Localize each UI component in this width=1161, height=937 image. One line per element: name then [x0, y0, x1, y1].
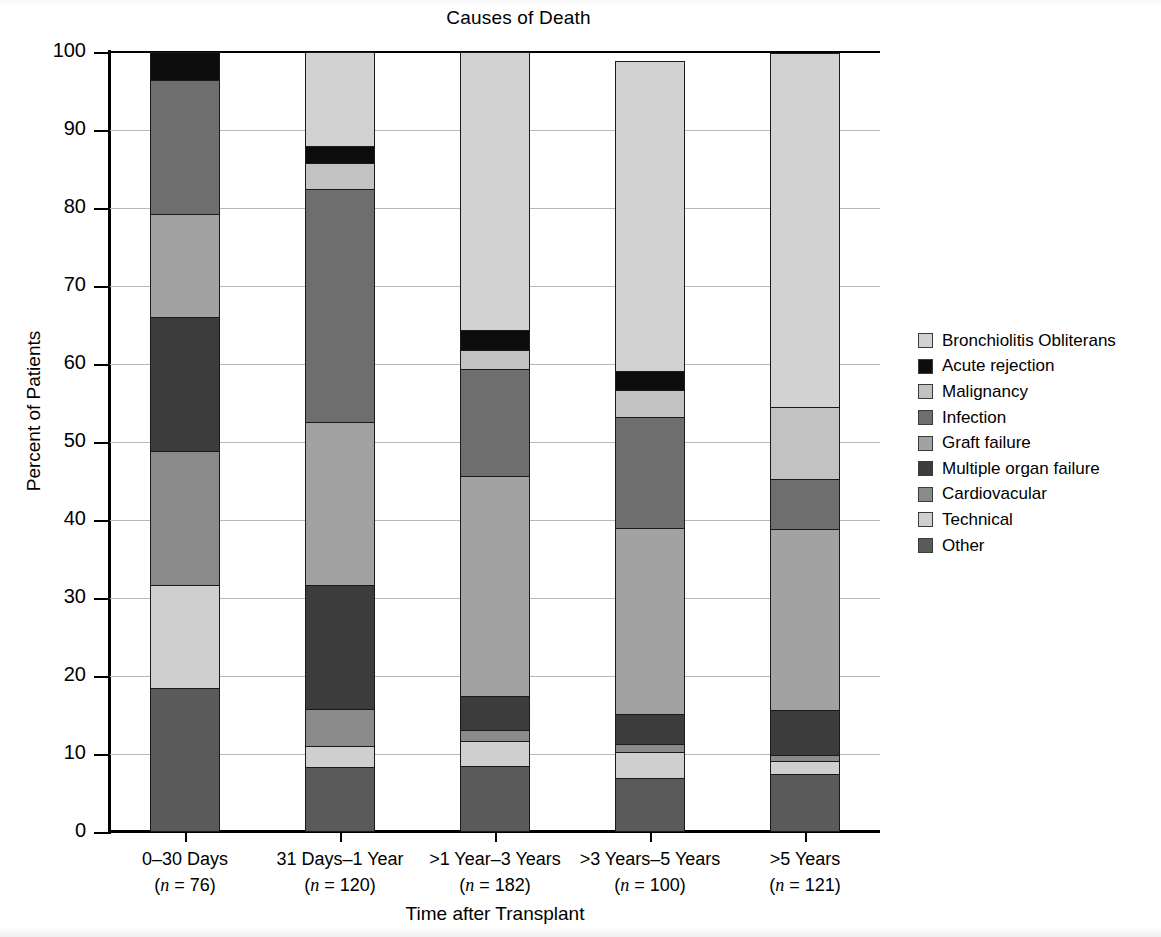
- y-tick-label-80: 80: [0, 195, 86, 218]
- bar-segment-multiple-organ-failure: [460, 696, 530, 730]
- y-tick-10: [94, 754, 110, 756]
- x-tick-4: [805, 833, 807, 842]
- legend-item-cardiovacular[interactable]: Cardiovacular: [918, 482, 1161, 508]
- y-tick-label-60: 60: [0, 351, 86, 374]
- scan-artifact-top: [0, 0, 1161, 6]
- legend-swatch-icon: [918, 333, 933, 348]
- legend-swatch-icon: [918, 384, 933, 399]
- bar-segment-malignancy: [305, 163, 375, 189]
- bar-segment-multiple-organ-failure: [150, 317, 220, 451]
- y-tick-label-20: 20: [0, 663, 86, 686]
- bar-segment-infection: [150, 80, 220, 214]
- bar-segment-other: [460, 766, 530, 832]
- bar-segment-infection: [615, 417, 685, 528]
- y-tick-label-40: 40: [0, 507, 86, 530]
- y-tick-0: [94, 832, 110, 834]
- chart-title: Causes of Death: [0, 7, 1161, 29]
- bar-segment-acute-rejection: [150, 52, 220, 80]
- legend-item-label: Other: [942, 536, 985, 556]
- legend-item-malignancy[interactable]: Malignancy: [918, 379, 1161, 405]
- bar-segment-acute-rejection: [460, 330, 530, 350]
- chart-legend: Bronchiolitis ObliteransAcute rejectionM…: [918, 328, 1161, 558]
- legend-swatch-icon: [918, 359, 933, 374]
- legend-item-label: Bronchiolitis Obliterans: [942, 331, 1116, 351]
- bar-segment-graft-failure: [305, 422, 375, 585]
- bar-segment-bronchiolitis-obliterans: [460, 52, 530, 330]
- bar-segment-infection: [770, 479, 840, 530]
- y-tick-label-90: 90: [0, 117, 86, 140]
- legend-swatch-icon: [918, 436, 933, 451]
- bar-segment-bronchiolitis-obliterans: [770, 53, 840, 407]
- legend-item-technical[interactable]: Technical: [918, 507, 1161, 533]
- bar-segment-malignancy: [615, 390, 685, 417]
- bar-segment-graft-failure: [770, 529, 840, 709]
- y-tick-label-70: 70: [0, 273, 86, 296]
- bar-segment-technical: [770, 761, 840, 774]
- bar-4: [770, 52, 840, 832]
- y-tick-40: [94, 520, 110, 522]
- bar-segment-graft-failure: [460, 476, 530, 695]
- bar-segment-acute-rejection: [615, 371, 685, 390]
- legend-item-bronchiolitis-obliterans[interactable]: Bronchiolitis Obliterans: [918, 328, 1161, 354]
- y-axis-tick-labels: 0102030405060708090100: [0, 0, 92, 937]
- bar-segment-infection: [460, 369, 530, 476]
- bar-segment-bronchiolitis-obliterans: [305, 52, 375, 146]
- bar-segment-graft-failure: [150, 214, 220, 317]
- bar-segment-cardiovacular: [770, 755, 840, 761]
- y-tick-60: [94, 364, 110, 366]
- chart-title-text: Causes of Death: [446, 7, 591, 28]
- y-tick-100: [94, 52, 110, 54]
- legend-item-label: Cardiovacular: [942, 484, 1047, 504]
- chart-figure: Causes of Death Percent of Patients 0102…: [0, 0, 1161, 937]
- bar-segment-malignancy: [770, 407, 840, 479]
- legend-swatch-icon: [918, 487, 933, 502]
- bar-segment-technical: [615, 752, 685, 779]
- legend-swatch-icon: [918, 512, 933, 527]
- legend-swatch-icon: [918, 538, 933, 553]
- bar-segment-acute-rejection: [305, 146, 375, 163]
- bar-segment-technical: [460, 741, 530, 767]
- bar-segment-other: [150, 688, 220, 832]
- y-tick-label-10: 10: [0, 741, 86, 764]
- bar-segment-graft-failure: [615, 528, 685, 714]
- plot-area: [110, 52, 880, 832]
- x-tick-1: [340, 833, 342, 842]
- legend-item-label: Multiple organ failure: [942, 459, 1100, 479]
- y-tick-50: [94, 442, 110, 444]
- y-tick-90: [94, 130, 110, 132]
- bar-3: [615, 52, 685, 832]
- legend-item-acute-rejection[interactable]: Acute rejection: [918, 354, 1161, 380]
- legend-swatch-icon: [918, 410, 933, 425]
- x-category-count: (n = 121): [705, 872, 905, 898]
- scan-artifact-bottom: [0, 927, 1161, 937]
- y-tick-label-100: 100: [0, 39, 86, 62]
- bar-segment-cardiovacular: [460, 730, 530, 741]
- legend-item-label: Malignancy: [942, 382, 1028, 402]
- bar-segment-cardiovacular: [305, 709, 375, 746]
- bar-segment-other: [305, 767, 375, 832]
- y-tick-label-50: 50: [0, 429, 86, 452]
- legend-item-label: Acute rejection: [942, 356, 1054, 376]
- legend-item-multiple-organ-failure[interactable]: Multiple organ failure: [918, 456, 1161, 482]
- bar-segment-multiple-organ-failure: [305, 585, 375, 709]
- legend-item-graft-failure[interactable]: Graft failure: [918, 430, 1161, 456]
- bar-1: [305, 52, 375, 832]
- legend-item-infection[interactable]: Infection: [918, 405, 1161, 431]
- bar-segment-malignancy: [460, 350, 530, 370]
- y-tick-20: [94, 676, 110, 678]
- legend-item-label: Infection: [942, 408, 1006, 428]
- x-category-label-4: >5 Years(n = 121): [705, 846, 905, 898]
- legend-item-other[interactable]: Other: [918, 533, 1161, 559]
- x-tick-0: [185, 833, 187, 842]
- bar-2: [460, 52, 530, 832]
- y-tick-70: [94, 286, 110, 288]
- x-tick-3: [650, 833, 652, 842]
- x-tick-2: [495, 833, 497, 842]
- y-tick-30: [94, 598, 110, 600]
- y-tick-80: [94, 208, 110, 210]
- legend-item-label: Technical: [942, 510, 1013, 530]
- y-tick-label-0: 0: [0, 819, 86, 842]
- bar-segment-infection: [305, 189, 375, 422]
- legend-swatch-icon: [918, 461, 933, 476]
- bar-segment-technical: [305, 746, 375, 767]
